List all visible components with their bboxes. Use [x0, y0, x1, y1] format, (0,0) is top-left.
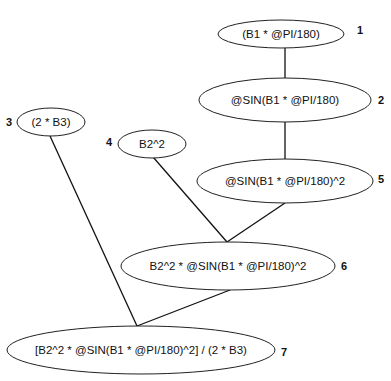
node-6: B2^2 * @SIN(B1 * @PI/180)^26 — [121, 242, 347, 290]
nodes-group: (B1 * @PI/180)1@SIN(B1 * @PI/180)2(2 * B… — [6, 20, 384, 374]
node-number: 4 — [106, 136, 113, 148]
node-label: [B2^2 * @SIN(B1 * @PI/180)^2] / (2 * B3) — [35, 344, 247, 356]
node-label: (B1 * @PI/180) — [242, 28, 320, 40]
node-label: B2^2 * @SIN(B1 * @PI/180)^2 — [150, 260, 307, 272]
edge-3-to-7 — [50, 136, 137, 326]
edge-6-to-7 — [137, 290, 230, 326]
node-number: 3 — [6, 116, 12, 128]
node-label: @SIN(B1 * @PI/180)^2 — [225, 175, 345, 187]
node-2: @SIN(B1 * @PI/180)2 — [199, 78, 384, 122]
node-number: 5 — [378, 173, 384, 185]
node-number: 7 — [281, 346, 287, 358]
node-label: (2 * B3) — [32, 116, 71, 128]
edge-5-to-6 — [227, 203, 285, 242]
node-4: B2^24 — [106, 130, 186, 158]
node-number: 2 — [378, 94, 384, 106]
node-label: B2^2 — [139, 138, 165, 150]
node-5: @SIN(B1 * @PI/180)^25 — [197, 159, 384, 203]
expression-tree-diagram: (B1 * @PI/180)1@SIN(B1 * @PI/180)2(2 * B… — [0, 0, 391, 381]
node-7: [B2^2 * @SIN(B1 * @PI/180)^2] / (2 * B3)… — [7, 326, 287, 374]
node-number: 6 — [341, 260, 347, 272]
node-number: 1 — [357, 24, 363, 36]
node-1: (B1 * @PI/180)1 — [218, 20, 363, 48]
node-3: (2 * B3)3 — [6, 108, 85, 136]
node-label: @SIN(B1 * @PI/180) — [231, 94, 340, 106]
